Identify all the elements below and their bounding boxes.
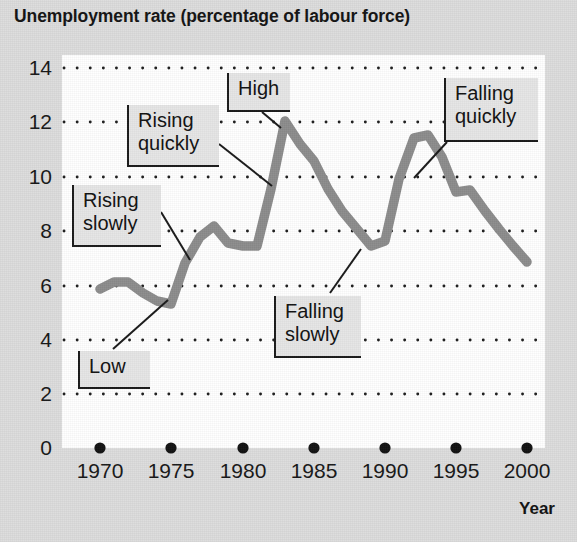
annotation-falling-quickly: Falling quickly <box>444 78 538 142</box>
annotation-rising-quickly: Rising quickly <box>127 105 219 167</box>
y-tick-14: 14 <box>6 56 52 80</box>
x-tick-1990: 1990 <box>345 459 425 483</box>
leader-line-rising-quickly <box>219 144 272 186</box>
y-tick-0: 0 <box>6 436 52 460</box>
x-tick-1995: 1995 <box>416 459 496 483</box>
annotation-high: High <box>227 73 290 112</box>
y-tick-6: 6 <box>6 274 52 298</box>
annotation-falling-slowly: Falling slowly <box>274 296 361 358</box>
y-tick-2: 2 <box>6 382 52 406</box>
x-axis-label: Year <box>519 499 555 519</box>
annotation-rising-slowly: Rising slowly <box>72 185 161 247</box>
x-tick-2000: 2000 <box>487 459 567 483</box>
annotation-low: Low <box>78 351 150 389</box>
y-tick-4: 4 <box>6 328 52 352</box>
leader-line-high <box>262 112 281 128</box>
y-tick-12: 12 <box>6 110 52 134</box>
x-tick-1975: 1975 <box>131 459 211 483</box>
x-tick-1980: 1980 <box>203 459 283 483</box>
y-tick-8: 8 <box>6 219 52 243</box>
x-axis-markers <box>94 442 532 453</box>
leader-line-low <box>113 300 168 349</box>
x-tick-1970: 1970 <box>60 459 140 483</box>
leader-line-falling-slowly <box>330 249 361 293</box>
y-tick-10: 10 <box>6 165 52 189</box>
x-tick-1985: 1985 <box>274 459 354 483</box>
leader-line-rising-slowly <box>161 212 190 260</box>
chart-figure: Unemployment rate (percentage of labour … <box>0 0 577 542</box>
